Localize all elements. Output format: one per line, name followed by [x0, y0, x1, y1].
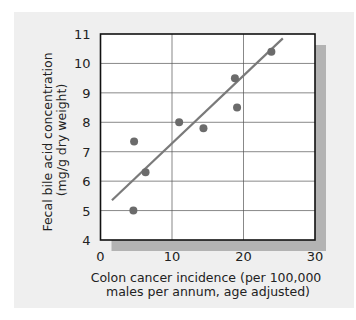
data-point	[142, 168, 150, 176]
y-tick-label: 11	[74, 27, 91, 42]
y-tick-label: 10	[74, 56, 91, 71]
data-point	[267, 48, 275, 56]
y-tick-label: 7	[82, 145, 90, 160]
data-point	[199, 124, 207, 132]
y-tick-label: 4	[82, 233, 90, 248]
y-axis-ticks: 4567891011	[74, 27, 91, 248]
scatter-chart: 4567891011 0102030 Fecal bile acid conce…	[0, 0, 356, 320]
data-point	[130, 137, 138, 145]
y-tick-label: 5	[82, 204, 90, 219]
x-tick-label: 10	[164, 249, 181, 264]
x-tick-label: 0	[96, 249, 104, 264]
y-tick-label: 8	[82, 115, 90, 130]
y-axis-label: Fecal bile acid concentration (mg/g dry …	[40, 48, 69, 231]
data-point	[129, 207, 137, 215]
data-point	[233, 104, 241, 112]
x-tick-label: 20	[235, 249, 252, 264]
x-axis-label: Colon cancer incidence (per 100,000 male…	[91, 270, 326, 299]
x-tick-label: 30	[307, 249, 324, 264]
y-tick-label: 9	[82, 86, 90, 101]
y-tick-label: 6	[82, 174, 90, 189]
data-point	[175, 118, 183, 126]
x-axis-ticks: 0102030	[96, 249, 323, 264]
data-point	[231, 74, 239, 82]
